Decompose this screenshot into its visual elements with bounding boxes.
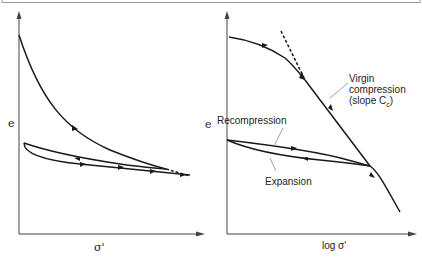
right-x-axis-label: log σ': [322, 241, 346, 251]
left-y-axis-label: e: [8, 118, 15, 129]
virgin-compression-annotation: Virgin compression (slope Cc): [349, 73, 406, 110]
recompression-curve: [227, 140, 370, 166]
expansion-curve: [227, 140, 370, 166]
right-direction-arrows: [262, 43, 375, 178]
initial-compression-curve: [229, 37, 305, 80]
expansion-label: Expansion: [265, 177, 312, 187]
annotation-leaders: [270, 83, 348, 171]
recompression-label: Recompression: [217, 116, 286, 126]
left-axes: [17, 11, 206, 237]
reloading-curve: [24, 143, 190, 175]
virgin-label-line3: (slope Cc): [349, 95, 406, 110]
left-curves: [19, 35, 190, 176]
virgin-extension-dashed: [281, 31, 305, 80]
right-y-axis-label: e: [205, 119, 212, 130]
figure-frame: e σ' e log σ' Virgin compression (slope …: [0, 0, 422, 259]
virgin-label-line2: compression: [349, 84, 406, 95]
continued-virgin-line: [370, 166, 400, 212]
virgin-label-line1: Virgin: [349, 73, 406, 84]
left-x-axis-label: σ': [94, 242, 105, 253]
